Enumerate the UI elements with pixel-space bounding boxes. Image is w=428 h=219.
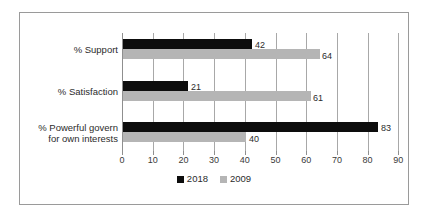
category-label-powerful-govern-line2: for own interests: [2, 133, 118, 144]
x-tick-label-50: 50: [270, 155, 280, 166]
legend-label-2009: 2009: [230, 174, 251, 184]
category-label-powerful-govern: % Powerful govern for own interests: [2, 122, 122, 144]
x-tick-label-60: 60: [301, 155, 311, 166]
gridline-80: [368, 33, 369, 151]
x-tick-label-80: 80: [363, 155, 373, 166]
x-tick-label-10: 10: [148, 155, 158, 166]
legend-label-2018: 2018: [187, 174, 208, 184]
bar-satisfaction-2009[interactable]: [123, 91, 311, 101]
legend-entry-2009[interactable]: 2009: [220, 174, 251, 184]
gridline-70: [337, 33, 338, 151]
x-tick-label-0: 0: [119, 155, 124, 166]
bar-powerful-govern-2009[interactable]: [123, 132, 246, 142]
legend-swatch-2009-icon: [220, 176, 227, 183]
category-label-support: % Support: [2, 44, 122, 55]
x-tick-label-20: 20: [178, 155, 188, 166]
category-label-satisfaction: % Satisfaction: [2, 86, 122, 97]
gridline-90: [398, 33, 399, 151]
bar-value-powerful-govern-2009: 40: [249, 134, 259, 144]
category-label-support-line1: % Support: [74, 44, 118, 55]
legend-swatch-2018-icon: [177, 176, 184, 183]
bar-support-2018[interactable]: [123, 39, 252, 49]
chart-frame: 0 10 20 30 40 50 60 70 80 90 % Support 4…: [19, 12, 409, 205]
bar-powerful-govern-2018[interactable]: [123, 122, 378, 132]
bar-value-support-2009: 64: [322, 51, 332, 61]
x-tick-label-40: 40: [240, 155, 250, 166]
bar-support-2009[interactable]: [123, 49, 320, 59]
category-label-satisfaction-line1: % Satisfaction: [58, 86, 118, 97]
bar-satisfaction-2018[interactable]: [123, 81, 188, 91]
x-tick-label-90: 90: [393, 155, 403, 166]
plot-area: 0 10 20 30 40 50 60 70 80 90 % Support 4…: [122, 33, 399, 151]
legend-entry-2018[interactable]: 2018: [177, 174, 208, 184]
chart-legend: 2018 2009: [20, 174, 408, 184]
category-label-powerful-govern-line1: % Powerful govern: [2, 122, 118, 133]
x-tick-label-70: 70: [332, 155, 342, 166]
bar-value-powerful-govern-2018: 83: [381, 123, 391, 133]
x-tick-label-30: 30: [209, 155, 219, 166]
bar-value-satisfaction-2009: 61: [313, 93, 323, 103]
